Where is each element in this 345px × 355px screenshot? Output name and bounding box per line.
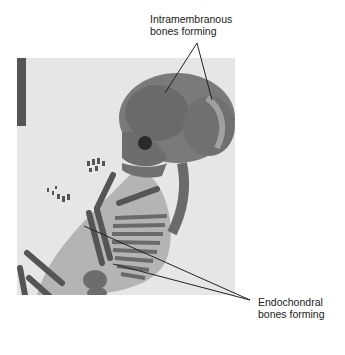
pointer-line-intramembranous-2 [197, 43, 212, 100]
label-intramembranous-line1: Intramembranous [150, 13, 232, 25]
label-intramembranous-line2: bones forming [150, 25, 232, 37]
label-intramembranous: Intramembranous bones forming [150, 13, 232, 37]
figure: Intramembranous bones forming Endochondr… [0, 0, 345, 355]
pointer-line-intramembranous-1 [165, 43, 197, 93]
label-endochondral-line2: bones forming [258, 308, 325, 320]
pointer-line-endochondral-1 [84, 226, 250, 300]
label-endochondral: Endochondral bones forming [258, 296, 325, 320]
label-endochondral-line1: Endochondral [258, 296, 325, 308]
